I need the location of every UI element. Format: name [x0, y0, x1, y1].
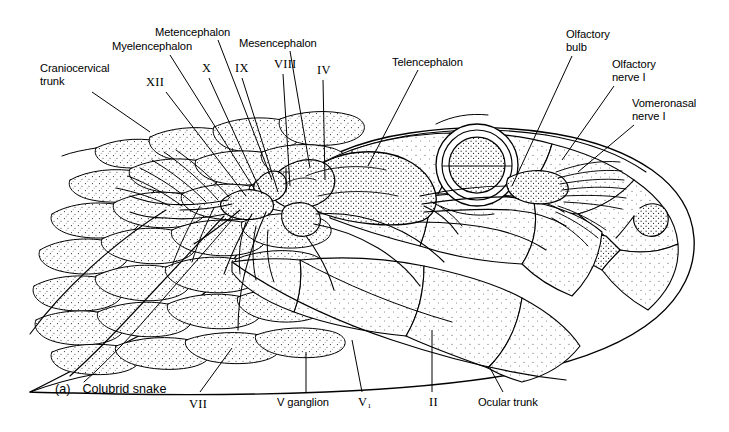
label-cranial-nerve-ix: IX: [235, 62, 249, 75]
label-cranial-nerve-x: X: [202, 62, 211, 75]
label-cranial-nerve-xii: XII: [146, 76, 164, 89]
label-cranial-nerve-v1: V₁: [358, 396, 372, 409]
leader-craniocervical-trunk: [92, 92, 150, 132]
label-cranial-nerve-vii: VII: [189, 398, 207, 411]
figure-caption: (a)Colubrid snake: [55, 382, 166, 396]
figure-caption-tag: (a): [55, 382, 70, 396]
figure-caption-text: Colubrid snake: [82, 382, 166, 396]
label-cranial-nerve-ii: II: [429, 396, 438, 409]
label-ocular-trunk: Ocular trunk: [478, 396, 538, 409]
label-v-ganglion: V ganglion: [277, 396, 329, 409]
label-cranial-nerve-iv: IV: [317, 64, 331, 77]
figure-colubrid-snake-cranial-anatomy: Craniocervical trunkMyelencephalonMetenc…: [0, 0, 729, 432]
label-metencephalon: Metencephalon: [155, 26, 230, 39]
label-mesencephalon: Mesencephalon: [239, 37, 317, 50]
label-vomeronasal-nerve-i: Vomeronasal nerve I: [632, 97, 696, 123]
label-olfactory-bulb: Olfactory bulb: [566, 28, 610, 54]
label-myelencephalon: Myelencephalon: [112, 40, 192, 53]
label-craniocervical-trunk: Craniocervical trunk: [40, 62, 109, 88]
label-telencephalon: Telencephalon: [392, 56, 463, 69]
label-olfactory-nerve-i: Olfactory nerve I: [612, 58, 656, 84]
label-cranial-nerve-viii: VIII: [274, 58, 297, 71]
